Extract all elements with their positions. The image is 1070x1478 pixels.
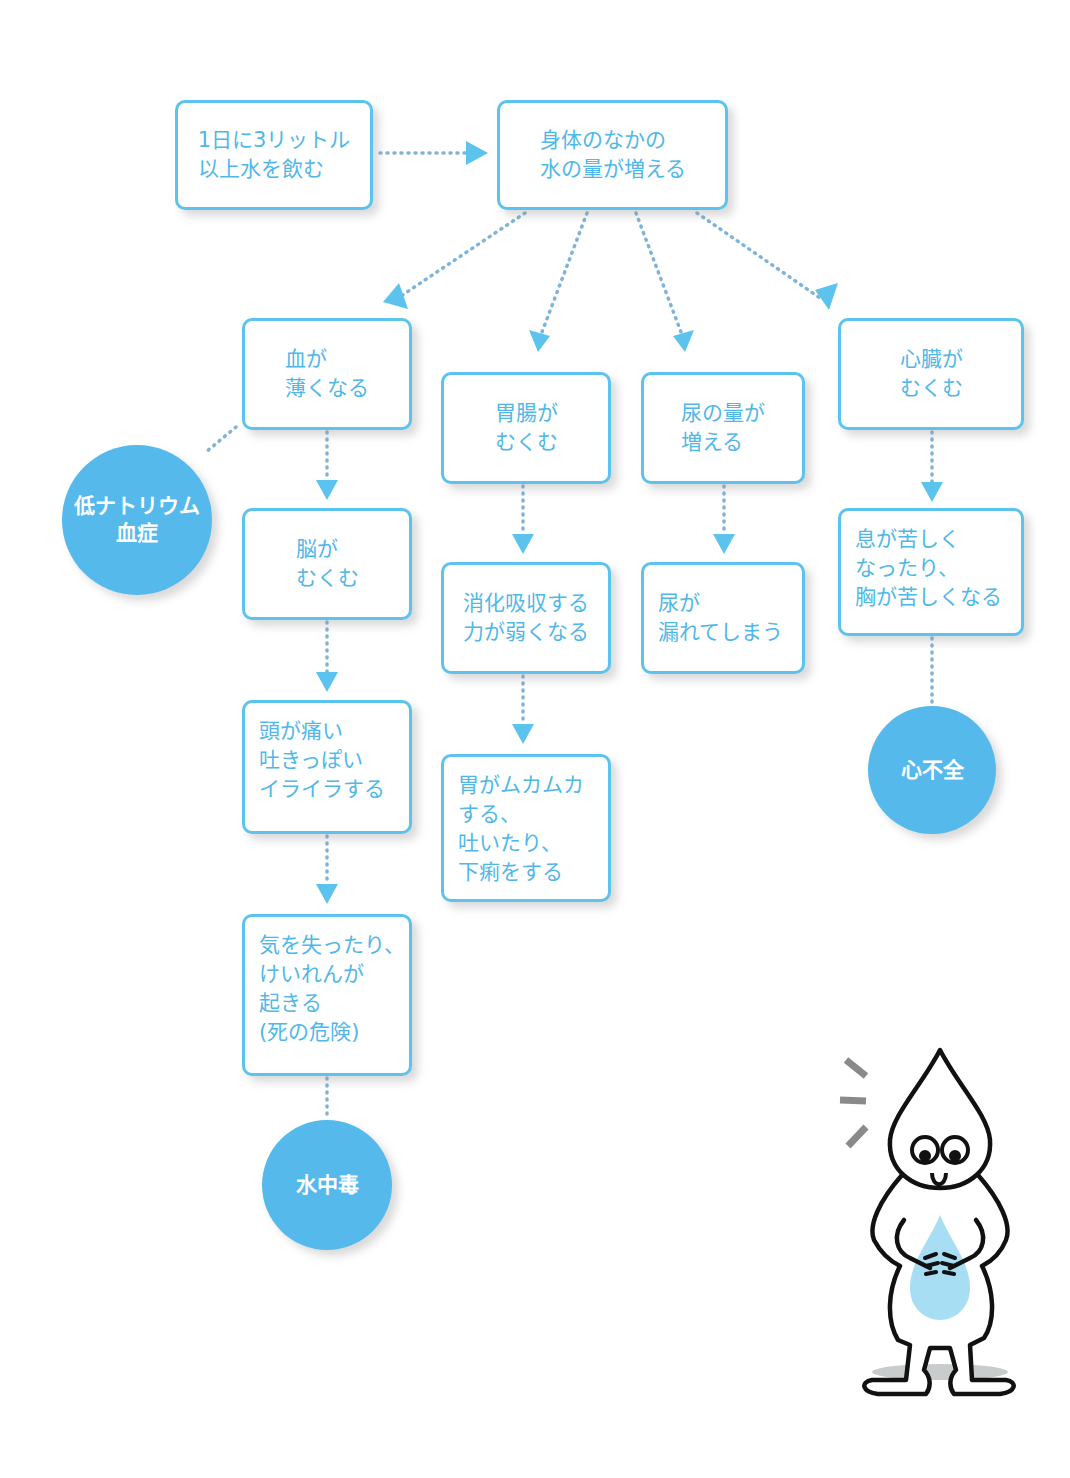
arrowhead — [713, 534, 735, 554]
arrowhead — [673, 330, 694, 352]
arrowhead — [316, 884, 338, 904]
arrowhead — [383, 283, 408, 309]
arrowhead — [529, 330, 550, 352]
flowchart-canvas: 1日に3リットル 以上水を飲む 身体のなかの 水の量が増える 血が 薄くなる 低… — [0, 0, 1070, 1478]
node-label: 気を失ったり、 けいれんが 起きる (死の危険) — [259, 931, 405, 1047]
node-stomach-swells: 胃腸が むくむ — [441, 372, 611, 484]
node-urine-increases: 尿の量が 増える — [641, 372, 805, 484]
node-label: 息が苦しく なったり、 胸が苦しくなる — [855, 525, 1002, 612]
node-breathing-difficulty: 息が苦しく なったり、 胸が苦しくなる — [838, 508, 1024, 636]
node-label: 身体のなかの 水の量が増える — [540, 126, 686, 184]
node-label: 尿の量が 増える — [681, 399, 765, 457]
node-label: 消化吸収する 力が弱くなる — [463, 589, 589, 647]
arrowhead — [512, 534, 534, 554]
arrowhead — [921, 482, 943, 502]
water-drop-character-icon — [830, 1030, 1050, 1410]
node-label: 脳が むくむ — [296, 535, 359, 593]
node-brain-swells: 脳が むくむ — [242, 508, 412, 620]
node-drink-3-liters: 1日に3リットル 以上水を飲む — [175, 100, 373, 210]
line-blood-to-hyponatremia — [206, 427, 236, 452]
node-headache-nausea: 頭が痛い 吐きっぽい イライラする — [242, 700, 412, 834]
node-label: 心臓が むくむ — [900, 345, 963, 403]
outcome-heart-failure: 心不全 — [868, 706, 996, 834]
outcome-water-intoxication: 水中毒 — [262, 1120, 392, 1250]
node-digestion-weakens: 消化吸収する 力が弱くなる — [441, 562, 611, 674]
node-label: 血が 薄くなる — [285, 345, 369, 403]
arrowhead — [316, 480, 338, 500]
arrow-main-to-heart — [697, 213, 820, 298]
arrowhead — [316, 672, 338, 692]
arrow-main-to-urine — [636, 213, 681, 332]
outcome-hyponatremia: 低ナトリウム 血症 — [62, 445, 212, 595]
node-label: 尿が 漏れてしまう — [658, 589, 783, 647]
node-heart-swells: 心臓が むくむ — [838, 318, 1024, 430]
node-blood-thins: 血が 薄くなる — [242, 318, 412, 430]
node-label: 胃がムカムカ する、 吐いたり、 下痢をする — [458, 771, 584, 887]
node-label: 胃腸が むくむ — [495, 399, 558, 457]
node-fainting-seizures: 気を失ったり、 けいれんが 起きる (死の危険) — [242, 914, 412, 1076]
arrow-main-to-stomach — [542, 213, 587, 332]
node-nausea-diarrhea: 胃がムカムカ する、 吐いたり、 下痢をする — [441, 754, 611, 902]
node-label: 頭が痛い 吐きっぽい イライラする — [259, 717, 385, 804]
arrowhead — [512, 724, 534, 744]
node-body-water-increases: 身体のなかの 水の量が増える — [497, 100, 728, 210]
arrowhead — [466, 141, 488, 165]
node-label: 1日に3リットル 以上水を飲む — [198, 126, 351, 184]
node-urine-leaks: 尿が 漏れてしまう — [641, 562, 805, 674]
arrow-main-to-blood — [398, 213, 525, 298]
